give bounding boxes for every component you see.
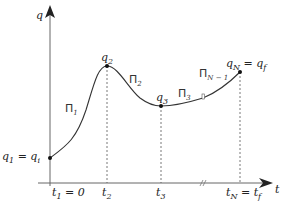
curve-break-icon	[202, 94, 205, 99]
label-q2: q2	[101, 52, 113, 66]
segment-label-2: Π2	[129, 74, 142, 88]
label-q1: q1 = qi	[2, 151, 40, 165]
segment-label-3: Π3	[178, 88, 191, 102]
tick-label-t3: t3	[156, 187, 166, 201]
tick-label-tn: tN = tf	[226, 187, 261, 201]
point-q1	[48, 156, 52, 160]
diagram-graphics	[0, 0, 289, 207]
trajectory-diagram: q t q1 = qi q2 q3 qN = qf Π1 Π2 Π3 ΠN − …	[0, 0, 289, 207]
label-q3: q3	[156, 92, 168, 106]
y-axis-label: q	[36, 10, 43, 21]
tick-label-t1: t1 = 0	[52, 187, 85, 201]
segment-label-1: Π1	[65, 103, 78, 117]
label-qn: qN = qf	[226, 58, 266, 72]
segment-label-n-1: ΠN − 1	[199, 68, 228, 82]
tick-label-t2: t2	[102, 187, 112, 201]
x-axis-label: t	[275, 184, 279, 195]
